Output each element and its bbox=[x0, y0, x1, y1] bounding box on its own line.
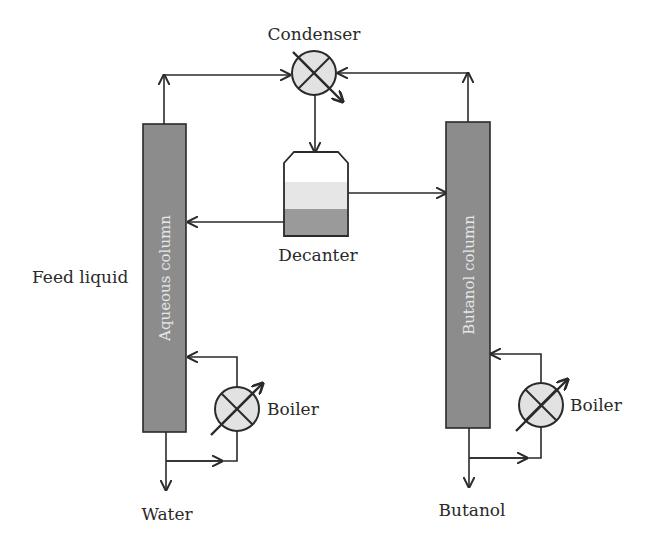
overhead-line-butanol bbox=[338, 73, 468, 122]
feed-liquid-label: Feed liquid bbox=[32, 267, 128, 287]
aqueous-column: Aqueous column bbox=[143, 124, 186, 432]
boiler-right: Boiler bbox=[516, 380, 623, 431]
decanter: Decanter bbox=[278, 152, 358, 265]
boiler-right-label: Boiler bbox=[570, 395, 623, 415]
butanol-column: Butanol column bbox=[446, 122, 490, 428]
overhead-line-aqueous bbox=[164, 75, 290, 124]
butanol-label: Butanol bbox=[438, 500, 505, 520]
condenser-label: Condenser bbox=[268, 24, 362, 44]
aqueous-column-label: Aqueous column bbox=[156, 215, 174, 342]
decanter-label: Decanter bbox=[278, 245, 358, 265]
butanol-column-label: Butanol column bbox=[460, 215, 478, 335]
boiler-left: Boiler bbox=[211, 384, 320, 435]
condenser: Condenser bbox=[268, 24, 362, 101]
boiler-left-label: Boiler bbox=[267, 399, 320, 419]
water-label: Water bbox=[141, 504, 193, 524]
process-flow-diagram: Condenser Decanter Aqueous column Butano… bbox=[0, 0, 648, 541]
